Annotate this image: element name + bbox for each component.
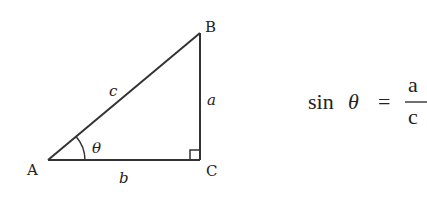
vertex-label-a: A: [26, 161, 38, 179]
angle-arc: [76, 137, 85, 160]
right-angle-marker: [190, 150, 200, 160]
vertex-label-c: C: [206, 162, 217, 180]
angle-label-theta: θ: [92, 139, 101, 157]
formula-denominator: c: [408, 104, 418, 129]
side-label-c: c: [109, 82, 118, 100]
triangle-diagram: A B C c a b θ sin θ = a c: [0, 0, 427, 202]
formula-numerator: a: [408, 72, 418, 97]
side-label-b: b: [119, 169, 129, 187]
formula-equals: =: [378, 89, 390, 114]
formula-func: sin: [308, 89, 334, 114]
formula-variable: θ: [348, 89, 359, 114]
side-hypotenuse: [48, 33, 200, 160]
side-label-a: a: [207, 91, 216, 109]
vertex-label-b: B: [205, 18, 216, 36]
